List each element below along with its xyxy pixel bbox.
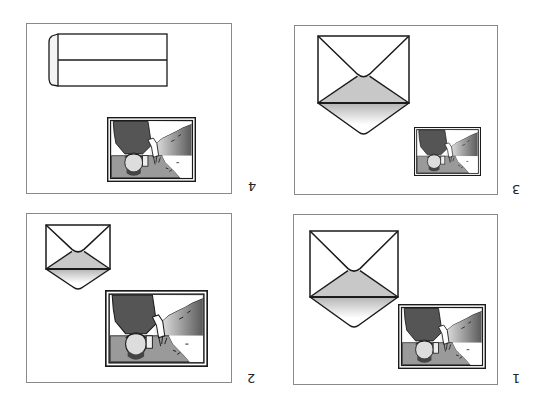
step-label-2: 2: [247, 372, 255, 385]
step-label-3: 3: [512, 183, 520, 196]
photo-image-step-4: [107, 117, 196, 182]
step-label-4: 4: [248, 180, 256, 193]
envelope-icon-step-4: [0, 0, 545, 401]
step-label-1: 1: [512, 372, 520, 385]
